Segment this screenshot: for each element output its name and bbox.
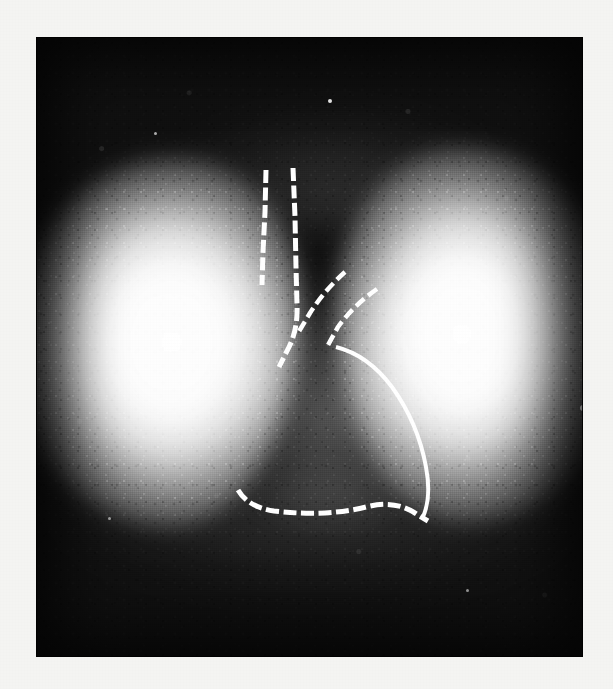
count-speck xyxy=(580,405,583,411)
count-speck xyxy=(466,589,469,592)
count-speck xyxy=(328,99,332,103)
count-speck xyxy=(108,517,111,520)
figure-page xyxy=(0,0,613,689)
subdiaphragmatic-haze xyxy=(66,477,566,627)
scintigram-plate xyxy=(36,37,583,657)
count-speck xyxy=(154,132,157,135)
